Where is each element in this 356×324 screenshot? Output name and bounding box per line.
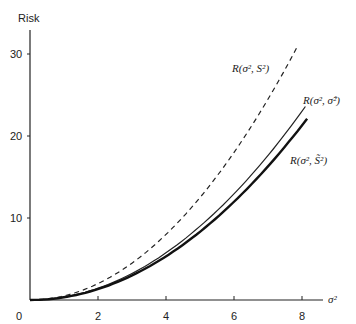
label-r-s-tilde: R(σ², S̃²) — [289, 154, 327, 167]
curve-r-s2-dashed — [30, 47, 297, 300]
curve-r-s-tilde-thick — [30, 119, 307, 300]
origin-label: 0 — [16, 310, 22, 322]
label-r-s2: R(σ², S²) — [231, 62, 269, 75]
y-tick-label: 20 — [10, 130, 22, 142]
x-axis-title: σ² — [328, 293, 337, 305]
y-tick-label: 10 — [10, 212, 22, 224]
label-r-sigma-hat: R(σ², σ̂²) — [302, 94, 340, 107]
y-axis-title: Risk — [18, 12, 40, 24]
x-tick-label: 2 — [95, 310, 101, 322]
curve-r-sigma-hat-thin — [30, 107, 305, 301]
risk-chart: 2468102030 Risk σ² 0 R(σ², S²) R(σ², σ̂²… — [0, 0, 356, 324]
x-tick-label: 8 — [299, 310, 305, 322]
x-tick-label: 4 — [163, 310, 169, 322]
x-tick-label: 6 — [231, 310, 237, 322]
axis-ticks: 2468102030 — [10, 48, 305, 322]
y-tick-label: 30 — [10, 48, 22, 60]
